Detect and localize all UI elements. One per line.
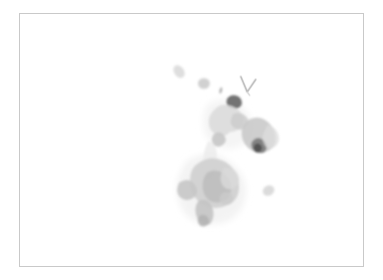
paper-background (20, 14, 363, 266)
ink-blot-artwork (20, 14, 363, 266)
picture-frame (19, 13, 364, 267)
spot-upper-round (198, 78, 210, 89)
image-canvas: Framed ink blot scan ink-blot-stain dilu… (0, 0, 383, 280)
blob-main-right-knob (220, 192, 234, 205)
